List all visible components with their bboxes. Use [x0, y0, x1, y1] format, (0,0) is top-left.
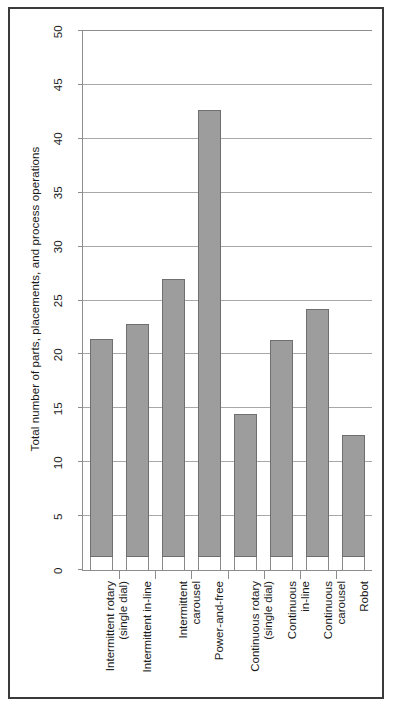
bar[interactable]: [270, 340, 293, 557]
chart-figure: Total number of parts, placements, and p…: [8, 7, 384, 699]
y-tick-label: 35: [53, 176, 65, 210]
x-axis-label: Robot: [358, 581, 375, 705]
bar-slot: [228, 31, 264, 570]
y-tick-label: 20: [53, 338, 65, 372]
bar-slot: [336, 31, 372, 570]
x-tick-mark: [300, 570, 301, 579]
bar[interactable]: [126, 324, 149, 557]
y-axis-title: Total number of parts, placements, and p…: [24, 39, 46, 559]
plot-area: 05101520253035404550: [82, 31, 372, 571]
bar-slot: [264, 31, 300, 570]
bar[interactable]: [234, 414, 257, 557]
bar-slot: [155, 31, 191, 570]
x-axis-label: Intermittent rotary (single dial): [104, 581, 121, 705]
bar-base-segment: [90, 557, 113, 570]
y-tick-label: 50: [53, 14, 65, 48]
y-tick-label: 25: [53, 284, 65, 318]
y-tick-label: 0: [53, 553, 65, 587]
bar[interactable]: [306, 309, 329, 557]
bar[interactable]: [342, 435, 365, 557]
x-tick-mark: [336, 570, 337, 579]
bar-base-segment: [270, 557, 293, 570]
x-tick-mark: [228, 570, 229, 579]
x-axis-label: Continuous in-line: [286, 581, 303, 705]
bar[interactable]: [90, 339, 113, 557]
bar-base-segment: [198, 557, 221, 570]
x-axis-labels: Intermittent rotary (single dial)Intermi…: [82, 581, 372, 708]
y-tick-label: 30: [53, 230, 65, 264]
y-tick-label: 15: [53, 392, 65, 426]
y-tick-label: 10: [53, 445, 65, 479]
bar[interactable]: [198, 110, 221, 557]
y-tick-label: 5: [53, 499, 65, 533]
x-axis-label: Intermittent in-line: [141, 581, 158, 705]
bar-base-segment: [234, 557, 257, 570]
x-tick-mark: [264, 570, 265, 579]
bar-base-segment: [342, 557, 365, 570]
bar-slot: [300, 31, 336, 570]
x-axis-label: Power-and-free: [213, 581, 230, 705]
y-tick-label: 45: [53, 68, 65, 102]
x-tick-mark: [119, 570, 120, 579]
bar-slot: [119, 31, 155, 570]
x-tick-mark: [155, 570, 156, 579]
y-tick-label: 40: [53, 122, 65, 156]
bar-base-segment: [126, 557, 149, 570]
bar[interactable]: [162, 279, 185, 557]
x-axis-label: Continuous carousel: [322, 581, 339, 705]
bar-base-segment: [162, 557, 185, 570]
x-axis-label: Continuous rotary (single dial): [249, 581, 266, 705]
bar-base-segment: [306, 557, 329, 570]
x-axis-label: Intermittent carousel: [177, 581, 194, 705]
bar-slot: [191, 31, 227, 570]
x-tick-mark: [191, 570, 192, 579]
bar-slot: [83, 31, 119, 570]
bar-series: [83, 31, 372, 570]
